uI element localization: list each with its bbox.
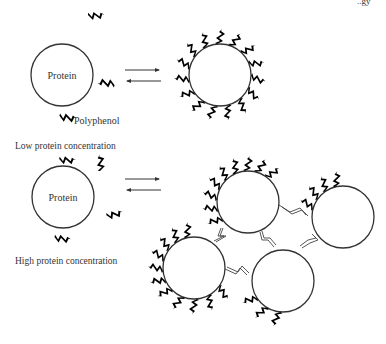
polyphenol-legend-label: Polyphenol xyxy=(74,115,120,126)
polyphenol-icon xyxy=(87,8,105,23)
high-concentration-caption: High protein concentration xyxy=(15,256,118,266)
polyphenol-icon xyxy=(105,206,124,223)
high-concentration-panel: Protein High protein concentration xyxy=(15,153,374,327)
polyphenol-icon xyxy=(59,153,77,167)
protein-label: Protein xyxy=(48,70,77,81)
polyphenol-icon xyxy=(97,77,115,91)
polyphenol-icon xyxy=(93,153,108,171)
coated-protein-complex xyxy=(174,29,267,121)
header-fragment: ..gy xyxy=(357,0,371,6)
polyphenol-icon xyxy=(54,232,71,245)
protein-aggregate xyxy=(148,156,374,327)
low-concentration-caption: Low protein concentration xyxy=(15,141,116,151)
protein-polyphenol-diagram: ..gy Protein Polyphenol Low protein conc… xyxy=(0,0,386,344)
protein-label: Protein xyxy=(49,192,78,203)
low-concentration-panel: Protein Polyphenol Low protein concentra… xyxy=(15,8,266,151)
equilibrium-arrows xyxy=(125,177,161,192)
equilibrium-arrows xyxy=(125,68,161,83)
